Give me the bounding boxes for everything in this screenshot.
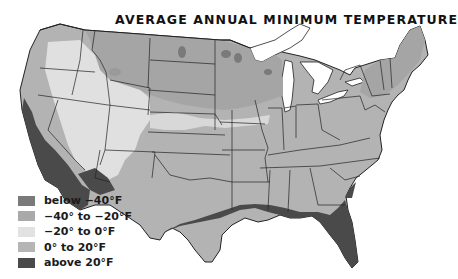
zone-below-minus40-patch bbox=[109, 68, 121, 76]
legend-item-0-to-20: 0° to 20°F bbox=[18, 240, 132, 256]
legend-swatch bbox=[18, 242, 35, 252]
legend-label: above 20°F bbox=[44, 256, 114, 269]
legend-label: −20° to 0°F bbox=[44, 225, 115, 238]
zone-below-minus40-patch bbox=[264, 69, 272, 75]
legend-item-above-20: above 20°F bbox=[18, 255, 132, 271]
zone-below-minus40-patch bbox=[221, 50, 231, 58]
zone-below-minus40-patch bbox=[178, 46, 186, 58]
legend-label: below −40°F bbox=[44, 194, 122, 207]
legend-swatch bbox=[18, 258, 35, 268]
zone-northeast-cold bbox=[360, 26, 425, 98]
legend-item-minus40-to-minus20: −40° to −20°F bbox=[18, 209, 132, 225]
legend-label: −40° to −20°F bbox=[44, 210, 132, 223]
legend-swatch bbox=[18, 227, 35, 237]
legend-label: 0° to 20°F bbox=[44, 241, 106, 254]
map-title: AVERAGE ANNUAL MINIMUM TEMPERATURE bbox=[115, 12, 458, 27]
legend-item-below-minus40: below −40°F bbox=[18, 193, 132, 209]
map-legend: below −40°F −40° to −20°F −20° to 0°F 0°… bbox=[18, 193, 132, 271]
legend-swatch bbox=[18, 211, 35, 221]
legend-swatch bbox=[18, 196, 35, 206]
zone-below-minus40-patch bbox=[234, 53, 242, 63]
legend-item-minus20-to-0: −20° to 0°F bbox=[18, 224, 132, 240]
